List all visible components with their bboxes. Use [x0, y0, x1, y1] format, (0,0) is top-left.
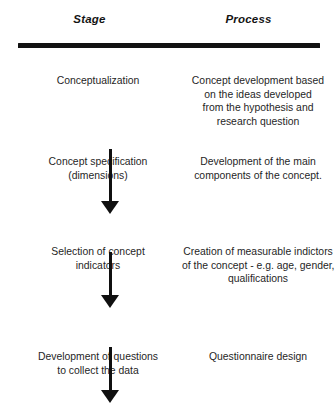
- process-cell-line: from the hypothesis and: [182, 101, 334, 115]
- process-cell-line: research question: [182, 115, 334, 129]
- arrow-shaft: [109, 149, 112, 202]
- arrow-down-icon: [96, 149, 126, 215]
- arrow-shaft: [109, 347, 112, 391]
- arrow-shaft: [109, 252, 112, 296]
- process-cell-development-of-main-components: Development of the main components of th…: [182, 155, 334, 182]
- process-cell-line: Development of the main: [182, 155, 334, 169]
- process-cell-line: of the concept - e.g. age, gender,: [182, 259, 334, 273]
- process-cell-concept-development: Concept development based on the ideas d…: [182, 74, 334, 128]
- column-header-stage: Stage: [6, 13, 173, 33]
- process-cell-line: Creation of measurable indictors: [182, 245, 334, 259]
- arrow-head: [101, 295, 119, 308]
- process-cell-line: Questionnaire design: [182, 350, 334, 364]
- stage-cell-line: Conceptualization: [14, 74, 182, 88]
- process-cell-line: Concept development based: [182, 74, 334, 88]
- process-cell-creation-of-measurable-indictors: Creation of measurable indictors of the …: [182, 245, 334, 286]
- arrow-down-icon: [96, 252, 126, 318]
- stage-cell-conceptualization: Conceptualization: [14, 74, 182, 88]
- header-divider-rule: [18, 43, 320, 48]
- arrow-head: [101, 390, 119, 403]
- column-headers: Stage Process: [0, 13, 334, 33]
- process-cell-line: on the ideas developed: [182, 88, 334, 102]
- arrow-head: [101, 201, 119, 214]
- column-header-process: Process: [165, 13, 332, 33]
- process-cell-questionnaire-design: Questionnaire design: [182, 350, 334, 364]
- process-cell-line: qualifications: [182, 272, 334, 286]
- arrow-down-icon: [96, 347, 126, 407]
- process-cell-line: components of the concept.: [182, 169, 334, 183]
